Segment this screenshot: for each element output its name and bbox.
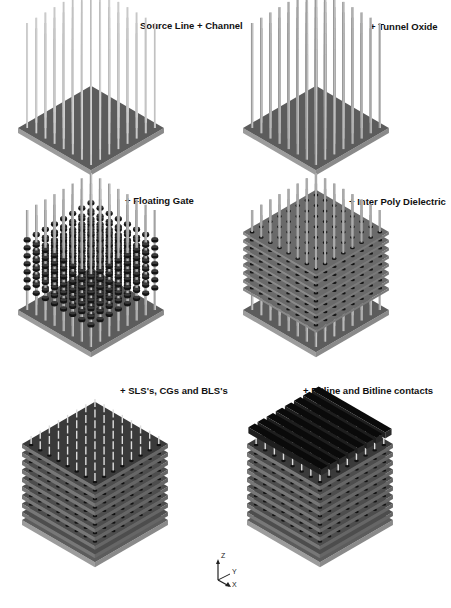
panel-floating-gate: + Floating Gate [0,180,225,360]
panel-tunnel-oxide: + Tunnel Oxide [225,0,451,180]
panel-sls-cg-bls: + SLS's, CGs and BLS's [0,370,225,570]
axis-y-label: Y [232,568,237,575]
panel-inter-poly-dielectric: + Inter Poly Dielectric [225,180,451,360]
tunnel-oxide-structure-graphic [225,0,451,180]
floating-gate-structure-graphic [0,180,225,360]
panel-source-line-channel: Source Line + Channel [0,0,225,180]
sls-cg-bls-structure-graphic [0,370,225,570]
ipd-structure-graphic [225,180,451,360]
panel-bitline-contacts: + Bitline and Bitline contacts [225,370,451,570]
axis-x-label: X [232,581,237,588]
channel-structure-graphic [0,0,225,180]
bitline-structure-graphic [225,370,451,570]
axis-z-label: Z [221,552,225,559]
axis-triad: Z Y X [205,550,245,590]
